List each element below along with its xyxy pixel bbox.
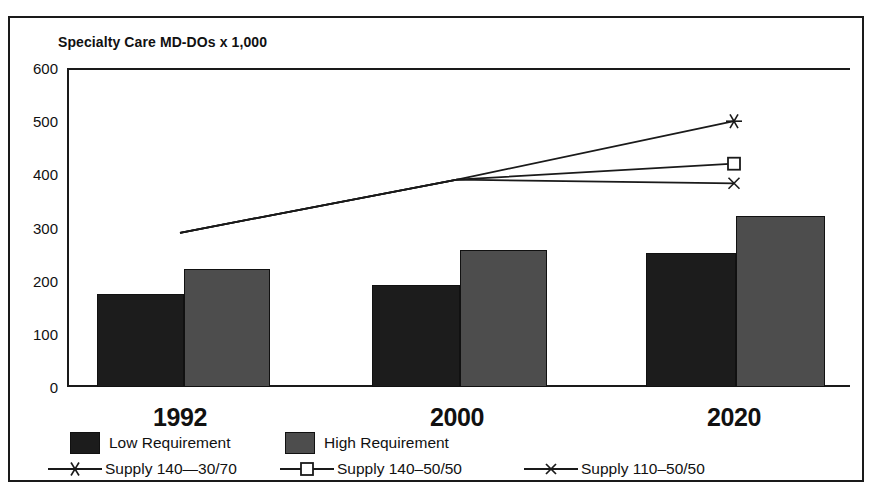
xtick-label-2020: 2020 bbox=[707, 403, 761, 432]
ytick-label-200: 200 bbox=[12, 272, 58, 289]
chart-title: Specialty Care MD-DOs x 1,000 bbox=[58, 34, 267, 50]
ytick-label-300: 300 bbox=[12, 219, 58, 236]
legend-line-asterisk-icon bbox=[48, 461, 102, 477]
line-supply-140-50-50 bbox=[180, 164, 734, 233]
line-supply-110-50-50 bbox=[180, 180, 734, 233]
legend-item-supply-110-50-50[interactable]: Supply 110–50/50 bbox=[524, 460, 705, 478]
marker-square-2020 bbox=[728, 158, 740, 170]
legend-line-x-icon bbox=[524, 461, 578, 477]
ytick-label-600: 600 bbox=[12, 60, 58, 77]
legend-item-supply-140-30-70[interactable]: Supply 140—30/70 bbox=[48, 460, 237, 478]
plot-area: 600 500 400 300 200 100 0 bbox=[67, 60, 850, 387]
legend-swatch-dark-icon bbox=[70, 432, 100, 454]
ytick-label-0: 0 bbox=[12, 379, 58, 396]
chart-legend: Low Requirement High Requirement Supply … bbox=[10, 430, 866, 484]
legend-label-supply-140-30-70: Supply 140—30/70 bbox=[105, 460, 237, 478]
legend-item-high-requirement[interactable]: High Requirement bbox=[285, 432, 449, 454]
legend-swatch-gray-icon bbox=[285, 432, 315, 454]
legend-label-high-requirement: High Requirement bbox=[324, 434, 449, 452]
xtick-label-2000: 2000 bbox=[430, 403, 484, 432]
legend-line-square-icon bbox=[280, 461, 334, 477]
legend-label-supply-140-50-50: Supply 140–50/50 bbox=[337, 460, 462, 478]
line-series-layer bbox=[67, 60, 850, 387]
ytick-label-100: 100 bbox=[12, 325, 58, 342]
marker-asterisk-2020 bbox=[726, 114, 742, 128]
chart-figure: Specialty Care MD-DOs x 1,000 600 500 40… bbox=[8, 16, 864, 482]
legend-item-supply-140-50-50[interactable]: Supply 140–50/50 bbox=[280, 460, 462, 478]
xtick-label-1992: 1992 bbox=[153, 403, 207, 432]
legend-label-supply-110-50-50: Supply 110–50/50 bbox=[581, 460, 705, 478]
ytick-label-400: 400 bbox=[12, 166, 58, 183]
legend-label-low-requirement: Low Requirement bbox=[109, 434, 230, 452]
ytick-label-500: 500 bbox=[12, 113, 58, 130]
legend-item-low-requirement[interactable]: Low Requirement bbox=[70, 432, 230, 454]
